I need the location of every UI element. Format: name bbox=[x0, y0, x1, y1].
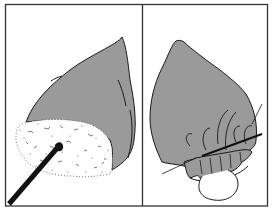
rod-tip bbox=[55, 142, 63, 151]
bulb-shape bbox=[150, 40, 257, 168]
right-panel bbox=[150, 40, 262, 200]
left-panel bbox=[9, 37, 135, 204]
illustration-figure bbox=[0, 0, 272, 212]
